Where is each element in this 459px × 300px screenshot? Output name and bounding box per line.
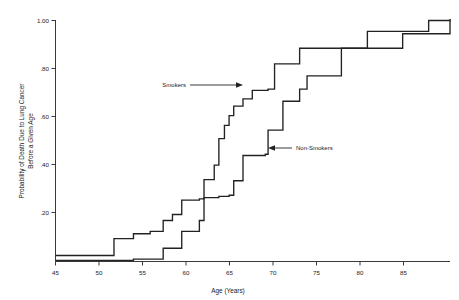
x-tick-label: 50 bbox=[96, 269, 103, 276]
chart-canvas: 1.00 .80 .60 .40 .20 45 50 55 60 65 70 bbox=[0, 0, 459, 300]
x-tick-label: 80 bbox=[357, 269, 364, 276]
y-tick-label: .80 bbox=[40, 65, 49, 72]
y-tick-label: .60 bbox=[40, 113, 49, 120]
y-tick-label: 1.00 bbox=[37, 17, 50, 24]
x-tick-label: 65 bbox=[226, 269, 233, 276]
non-smokers-curve bbox=[56, 19, 451, 260]
y-axis-title-line2: Before a Given Age bbox=[27, 113, 35, 169]
x-axis-tick-labels: 45 50 55 60 65 70 75 80 85 bbox=[52, 269, 407, 276]
chart-figure: 1.00 .80 .60 .40 .20 45 50 55 60 65 70 bbox=[0, 0, 459, 300]
non-smokers-arrow-head-icon bbox=[268, 145, 275, 151]
smokers-label: Smokers bbox=[162, 82, 186, 88]
y-axis-title-line1: Probability of Death Due to Lung Cancer bbox=[18, 83, 26, 199]
x-tick-label: 45 bbox=[52, 269, 59, 276]
y-axis-ticks bbox=[52, 21, 56, 213]
non-smokers-annotation: Non-Smokers bbox=[268, 145, 333, 151]
smokers-arrow-head-icon bbox=[236, 82, 243, 88]
y-tick-label: .20 bbox=[40, 209, 49, 216]
y-axis-title: Probability of Death Due to Lung Cancer … bbox=[18, 83, 35, 199]
x-tick-label: 70 bbox=[270, 269, 277, 276]
non-smokers-label: Non-Smokers bbox=[296, 145, 333, 151]
x-axis-title: Age (Years) bbox=[211, 287, 245, 295]
x-tick-label: 75 bbox=[313, 269, 320, 276]
smokers-annotation: Smokers bbox=[162, 82, 243, 88]
x-tick-label: 60 bbox=[183, 269, 190, 276]
y-tick-label: .40 bbox=[40, 161, 49, 168]
x-tick-label: 55 bbox=[139, 269, 146, 276]
x-tick-label: 85 bbox=[400, 269, 407, 276]
x-axis-ticks bbox=[56, 262, 404, 266]
smokers-curve bbox=[56, 19, 451, 255]
y-axis-tick-labels: 1.00 .80 .60 .40 .20 bbox=[37, 17, 50, 216]
